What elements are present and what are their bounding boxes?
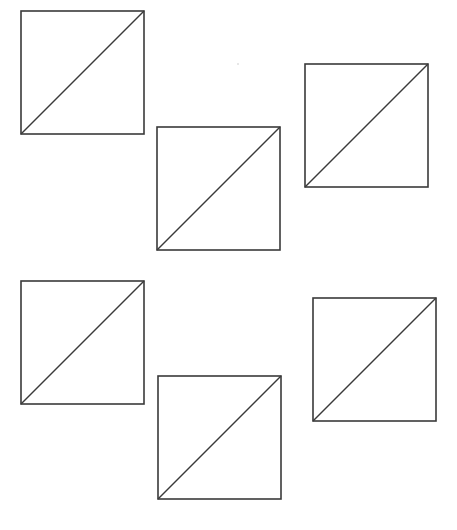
square-1-figure xyxy=(21,11,144,134)
figures-group xyxy=(21,11,436,499)
diagonal-line xyxy=(157,127,280,250)
square-2-figure xyxy=(157,127,280,250)
square-3-figure xyxy=(305,64,428,187)
figure-canvas xyxy=(0,0,457,530)
diagonal-line xyxy=(313,298,436,421)
square-6-figure xyxy=(313,298,436,421)
diagonal-line xyxy=(21,281,144,404)
square-4-figure xyxy=(21,281,144,404)
diagonal-line xyxy=(158,376,281,499)
scan-speck xyxy=(237,63,239,65)
square-5-figure xyxy=(158,376,281,499)
diagonal-line xyxy=(305,64,428,187)
diagonal-line xyxy=(21,11,144,134)
